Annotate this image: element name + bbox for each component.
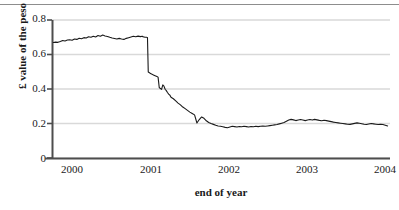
axis-ticks — [47, 20, 52, 158]
gridlines — [52, 20, 390, 158]
data-series-line — [53, 35, 387, 128]
plot-area — [0, 0, 399, 210]
chart-figure: £ value of the peso end of year 0 0.2 0.… — [0, 0, 399, 210]
